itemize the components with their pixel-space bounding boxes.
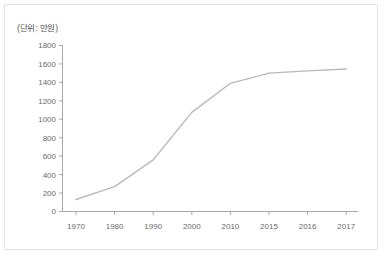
x-axis-tick-label: 2015 — [260, 222, 278, 231]
x-axis-tick-label: 2016 — [299, 222, 317, 231]
y-axis-tick-labels: 020040060080010001200140016001800 — [38, 41, 56, 216]
line-chart-plot: 020040060080010001200140016001800 197019… — [0, 0, 384, 256]
y-axis-tick-label: 1600 — [38, 60, 56, 69]
y-axis: 020040060080010001200140016001800 — [38, 41, 62, 216]
y-axis-tick-label: 200 — [43, 189, 57, 198]
y-axis-tick-label: 800 — [43, 134, 57, 143]
x-axis-tick-label: 1990 — [144, 222, 162, 231]
x-axis-tick-label: 1980 — [106, 222, 124, 231]
x-axis-tick-labels: 19701980199020002010201520162017 — [67, 222, 356, 231]
x-axis: 19701980199020002010201520162017 — [63, 212, 359, 231]
y-axis-tick-label: 1400 — [38, 78, 56, 87]
series-line-path — [76, 69, 346, 199]
data-series-group — [76, 69, 346, 199]
y-axis-ticks — [59, 46, 63, 212]
x-axis-tick-label: 1970 — [67, 222, 85, 231]
x-axis-tick-label: 2017 — [337, 222, 355, 231]
y-axis-tick-label: 0 — [52, 207, 57, 216]
x-axis-tick-label: 2000 — [183, 222, 201, 231]
y-axis-tick-label: 1000 — [38, 115, 56, 124]
x-axis-tick-label: 2010 — [222, 222, 240, 231]
chart-figure: (단위: 만원) 0200400600800100012001400160018… — [0, 0, 384, 256]
y-axis-tick-label: 400 — [43, 171, 57, 180]
y-axis-tick-label: 1200 — [38, 97, 56, 106]
y-axis-tick-label: 600 — [43, 152, 57, 161]
x-axis-ticks — [76, 212, 346, 216]
y-axis-tick-label: 1800 — [38, 41, 56, 50]
